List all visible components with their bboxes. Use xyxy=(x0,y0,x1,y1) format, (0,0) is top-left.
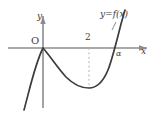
curve-label-leader xyxy=(112,22,116,30)
origin-label: O xyxy=(31,36,39,46)
x-axis-label: x xyxy=(141,47,146,56)
graph-canvas xyxy=(0,0,157,113)
y-axis-label: y xyxy=(37,12,42,21)
x-tick-label-2: 2 xyxy=(85,33,91,42)
function-curve xyxy=(24,10,125,110)
curve-label: y=f(x) xyxy=(100,10,128,19)
root-label-alpha: α xyxy=(116,50,121,58)
function-graph-figure: y x O 2 α y=f(x) xyxy=(0,0,157,113)
